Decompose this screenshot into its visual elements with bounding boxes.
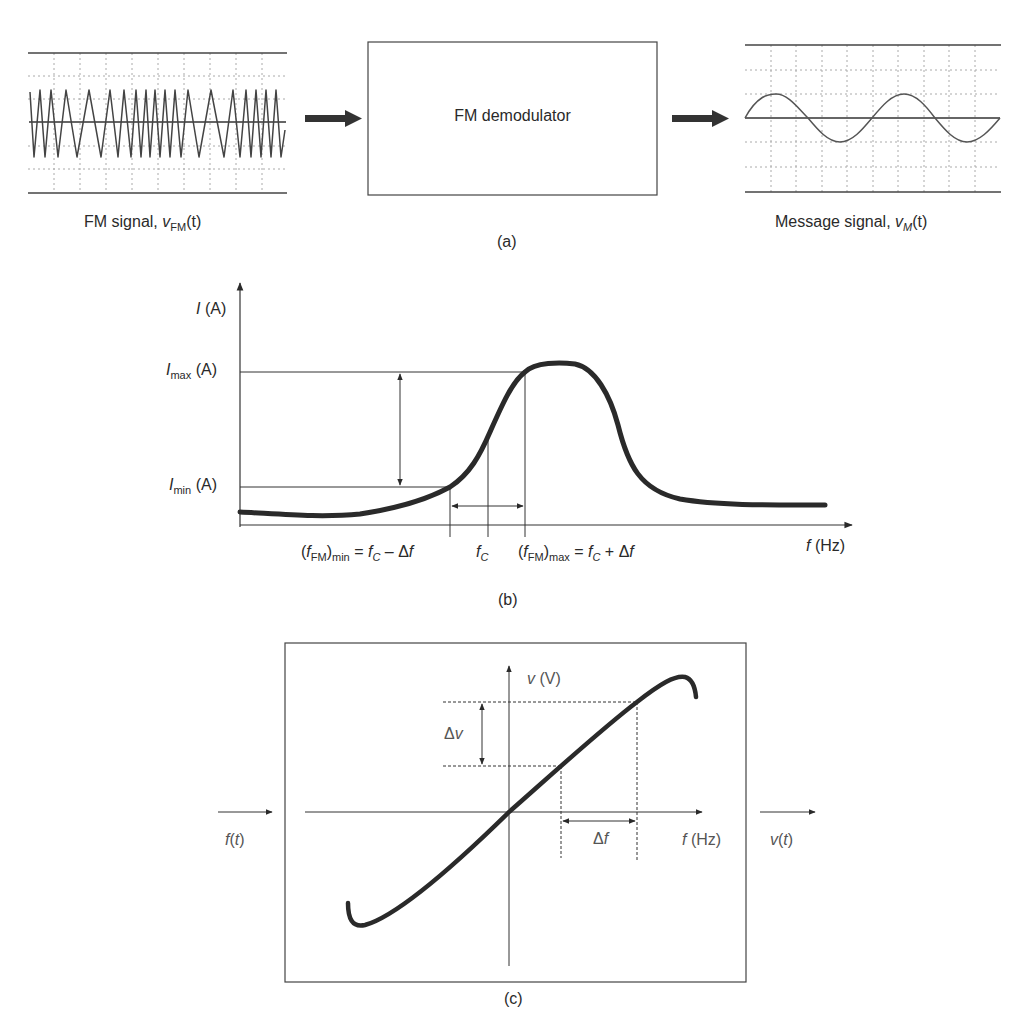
message-signal-label: Message signal, vM(t) — [775, 213, 927, 231]
imin-label: Imin (A) — [169, 476, 217, 494]
resonance-curve — [240, 363, 825, 516]
imax-label: Imax (A) — [166, 361, 217, 379]
response-plot-b — [240, 283, 852, 537]
input-arrow-a — [305, 110, 362, 127]
frequency-axis-label-b: f (Hz) — [806, 537, 845, 555]
frequency-axis-label-c: f (Hz) — [682, 831, 721, 849]
current-axis-label: I (A) — [196, 300, 226, 318]
delta-f-label: Δf — [593, 830, 608, 848]
discriminator-plot-c — [218, 643, 815, 982]
fc-label: fC — [476, 543, 488, 561]
fmin-label: (fFM)min = fC – Δf — [301, 543, 413, 561]
discriminator-curve — [348, 677, 696, 926]
delta-v-label: Δv — [444, 725, 463, 743]
caption-b: (b) — [498, 591, 518, 609]
voltage-axis-label: v (V) — [527, 670, 561, 688]
fm-demodulator-label: FM demodulator — [373, 107, 652, 125]
fm-waveform — [30, 90, 285, 157]
output-arrow-a — [672, 110, 729, 127]
caption-a: (a) — [497, 233, 517, 251]
fmax-label: (fFM)max = fC + Δf — [518, 543, 634, 561]
message-signal-scope — [745, 45, 1001, 192]
fm-signal-label: FM signal, vFM(t) — [84, 213, 201, 231]
output-voltage-label: v(t) — [770, 831, 793, 849]
caption-c: (c) — [504, 990, 523, 1008]
fm-signal-scope — [28, 53, 287, 193]
diagram-canvas — [0, 0, 1028, 1034]
input-frequency-label: f(t) — [225, 831, 245, 849]
